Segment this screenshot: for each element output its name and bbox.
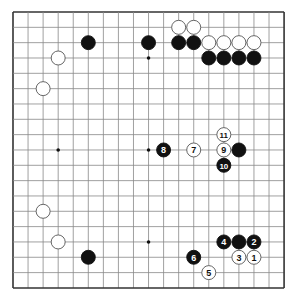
stone-circle: [232, 36, 246, 50]
white-stone[interactable]: [36, 204, 50, 218]
star-point: [147, 56, 151, 60]
white-stone[interactable]: [232, 36, 246, 50]
stone-circle: [36, 82, 50, 96]
stone-circle: [81, 250, 95, 264]
stone-circle: [81, 36, 95, 50]
star-point: [147, 240, 151, 244]
black-stone[interactable]: [81, 250, 95, 264]
white-stone[interactable]: [172, 20, 186, 34]
white-stone[interactable]: [51, 235, 65, 249]
move-number: 6: [191, 253, 196, 263]
black-stone[interactable]: [232, 51, 246, 65]
black-stone[interactable]: [247, 51, 261, 65]
stone-circle: [217, 36, 231, 50]
white-stone[interactable]: [36, 82, 50, 96]
black-stone[interactable]: [217, 51, 231, 65]
stone-circle: [202, 36, 216, 50]
move-number: 10: [219, 162, 228, 171]
white-stone[interactable]: [187, 20, 201, 34]
white-stone[interactable]: [217, 36, 231, 50]
star-point: [147, 148, 151, 152]
black-stone[interactable]: 2: [247, 235, 261, 249]
stone-circle: [51, 235, 65, 249]
stone-circle: [172, 36, 186, 50]
move-number: 1: [251, 253, 256, 263]
stone-circle: [36, 204, 50, 218]
black-stone[interactable]: 4: [217, 235, 231, 249]
black-stone[interactable]: [232, 143, 246, 157]
white-stone[interactable]: [247, 36, 261, 50]
black-stone[interactable]: [172, 36, 186, 50]
black-stone[interactable]: [232, 235, 246, 249]
move-number: 3: [236, 253, 241, 263]
black-stone[interactable]: [187, 36, 201, 50]
stone-circle: [142, 36, 156, 50]
white-stone[interactable]: 9: [217, 143, 231, 157]
black-stone[interactable]: 10: [217, 158, 231, 172]
stone-circle: [217, 51, 231, 65]
black-stone[interactable]: [142, 36, 156, 50]
black-stone[interactable]: 6: [187, 250, 201, 264]
white-stone[interactable]: [202, 36, 216, 50]
black-stone[interactable]: [202, 51, 216, 65]
move-number: 5: [206, 268, 211, 278]
stone-circle: [172, 20, 186, 34]
white-stone[interactable]: [51, 51, 65, 65]
stone-circle: [202, 51, 216, 65]
white-stone[interactable]: 1: [247, 250, 261, 264]
star-point: [56, 148, 60, 152]
white-stone[interactable]: 11: [217, 128, 231, 142]
move-number: 2: [251, 237, 256, 247]
stone-circle: [187, 20, 201, 34]
stone-circle: [232, 143, 246, 157]
move-number: 11: [220, 131, 229, 140]
move-number: 7: [191, 145, 196, 155]
stone-circle: [51, 51, 65, 65]
black-stone[interactable]: 8: [157, 143, 171, 157]
white-stone[interactable]: 5: [202, 266, 216, 280]
move-number: 4: [221, 237, 226, 247]
stone-circle: [232, 235, 246, 249]
black-stone[interactable]: [81, 36, 95, 50]
go-board[interactable]: 8791110423165: [0, 0, 292, 305]
white-stone[interactable]: 7: [187, 143, 201, 157]
move-number: 9: [221, 145, 226, 155]
stone-circle: [232, 51, 246, 65]
move-number: 8: [161, 145, 166, 155]
stone-circle: [247, 36, 261, 50]
stone-circle: [187, 36, 201, 50]
white-stone[interactable]: 3: [232, 250, 246, 264]
stone-circle: [247, 51, 261, 65]
